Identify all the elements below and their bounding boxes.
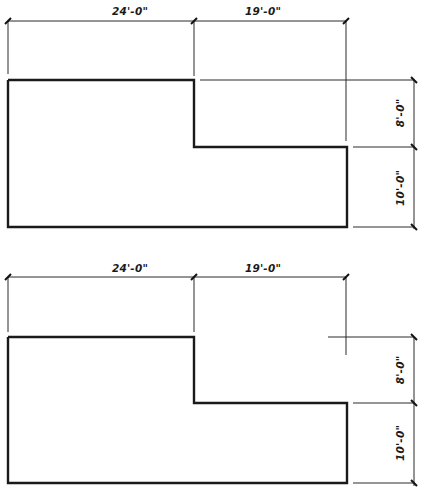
drawing-canvas: 24'-0" 19'-0" 8'-0" 10'-0" 24'-0" 19'-0"… xyxy=(0,0,428,488)
dimension-label-height-2: 10'-0" xyxy=(394,425,406,461)
dimension-label-height-2: 10'-0" xyxy=(394,170,406,206)
dimension-label-width-2: 19'-0" xyxy=(245,262,281,274)
l-shaped-outline xyxy=(8,80,347,227)
dimension-label-width-2: 19'-0" xyxy=(245,5,281,17)
dimension-label-height-1: 8'-0" xyxy=(394,99,406,128)
l-shaped-outline xyxy=(8,337,347,483)
dimension-label-height-1: 8'-0" xyxy=(394,356,406,385)
dimension-label-width-1: 24'-0" xyxy=(112,262,148,274)
plan-drawing-bottom: 24'-0" 19'-0" 8'-0" 10'-0" xyxy=(5,262,417,486)
plan-drawing-top: 24'-0" 19'-0" 8'-0" 10'-0" xyxy=(5,5,417,230)
dimension-label-width-1: 24'-0" xyxy=(112,5,148,17)
